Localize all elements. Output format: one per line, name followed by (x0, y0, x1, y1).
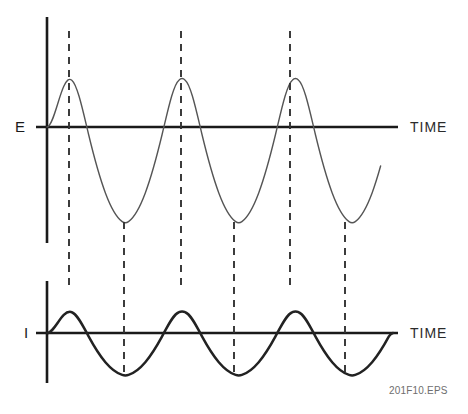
waveform-figure: E I TIME TIME 201F10.EPS (0, 0, 468, 414)
voltage-axis-label: E (15, 118, 26, 135)
current-sine-wave (47, 311, 393, 375)
time-axis-label-bottom: TIME (410, 325, 447, 341)
current-graph-group (36, 281, 398, 383)
voltage-graph-group (36, 17, 398, 243)
waveform-diagram-svg (0, 0, 468, 414)
figure-id-label: 201F10.EPS (389, 385, 448, 396)
phase-alignment-guides (69, 31, 345, 375)
voltage-sine-wave (47, 79, 381, 223)
current-axis-label: I (24, 324, 29, 341)
time-axis-label-top: TIME (410, 119, 447, 135)
